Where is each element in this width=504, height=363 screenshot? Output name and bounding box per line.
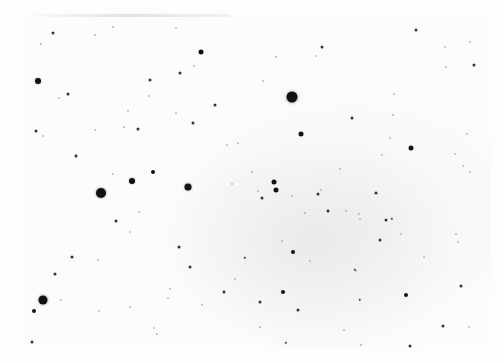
star <box>71 256 74 259</box>
faint-star <box>445 66 447 68</box>
star <box>35 78 41 84</box>
star <box>409 345 412 348</box>
faint-star <box>112 173 114 175</box>
star <box>327 210 330 213</box>
star <box>281 290 285 294</box>
star <box>214 104 217 107</box>
faint-star <box>281 240 283 242</box>
star <box>404 293 408 297</box>
faint-star <box>153 327 155 329</box>
star <box>415 29 418 32</box>
faint-star <box>156 333 158 335</box>
faint-star <box>444 46 446 48</box>
faint-star <box>237 142 239 144</box>
faint-star <box>129 231 131 233</box>
faint-star <box>94 34 96 36</box>
star <box>259 301 262 304</box>
star <box>179 72 182 75</box>
faint-star <box>454 153 456 155</box>
star <box>67 93 70 96</box>
faint-star <box>60 299 62 301</box>
faint-star <box>315 55 317 57</box>
star <box>297 309 300 312</box>
star <box>473 64 476 67</box>
star <box>379 239 382 242</box>
faint-star <box>257 190 259 192</box>
star <box>31 341 34 344</box>
faint-star <box>98 310 100 312</box>
faint-star <box>262 80 264 82</box>
star <box>291 250 295 254</box>
faint-star <box>175 112 177 114</box>
faint-star <box>234 278 236 280</box>
star <box>274 188 279 193</box>
faint-star <box>97 259 99 261</box>
faint-star <box>455 233 457 235</box>
faint-star <box>175 27 177 29</box>
star <box>185 184 192 191</box>
star <box>272 180 277 185</box>
faint-star <box>123 126 125 128</box>
faint-star <box>393 93 395 95</box>
star <box>299 132 304 137</box>
faint-star <box>148 95 150 97</box>
faint-star <box>345 210 347 212</box>
faint-star <box>40 43 42 45</box>
faint-star <box>201 304 203 306</box>
faint-star <box>169 288 171 290</box>
faint-star <box>291 195 293 197</box>
star <box>39 296 48 305</box>
star <box>351 117 354 120</box>
faint-star <box>462 165 464 167</box>
faint-star <box>304 212 306 214</box>
faint-star <box>360 344 362 346</box>
star <box>149 79 152 82</box>
faint-star <box>259 326 261 328</box>
faint-star <box>138 211 140 213</box>
faint-star <box>320 189 322 191</box>
faint-star <box>457 241 459 243</box>
faint-star <box>112 26 114 28</box>
faint-star <box>468 326 470 328</box>
star <box>261 197 264 200</box>
faint-star <box>42 135 44 137</box>
star-field-photo <box>0 0 504 363</box>
faint-star <box>275 56 277 58</box>
star <box>189 266 192 269</box>
faint-star <box>469 171 471 173</box>
star <box>54 273 57 276</box>
star <box>32 309 36 313</box>
star <box>442 325 445 328</box>
plate-top-edge <box>24 14 230 17</box>
star <box>178 246 181 249</box>
faint-star <box>94 129 96 131</box>
faint-star <box>127 110 129 112</box>
faint-star <box>389 137 391 139</box>
faint-star <box>358 213 360 215</box>
faint-star <box>231 183 233 185</box>
faint-star <box>381 154 383 156</box>
star <box>375 192 378 195</box>
photographic-plate <box>22 14 490 347</box>
faint-star <box>466 133 468 135</box>
star <box>321 46 324 49</box>
faint-star <box>392 114 394 116</box>
faint-star <box>359 218 361 220</box>
faint-star <box>58 97 60 99</box>
faint-star <box>226 144 228 146</box>
faint-star <box>309 260 311 262</box>
star <box>287 92 298 103</box>
star <box>460 285 463 288</box>
star <box>385 219 388 222</box>
star <box>151 170 155 174</box>
faint-star <box>423 256 425 258</box>
star <box>192 122 195 125</box>
star <box>129 178 135 184</box>
star <box>409 146 414 151</box>
faint-star <box>193 65 195 67</box>
star <box>137 128 140 131</box>
faint-star <box>469 41 471 43</box>
star <box>115 220 118 223</box>
faint-star <box>129 306 131 308</box>
star <box>199 50 204 55</box>
